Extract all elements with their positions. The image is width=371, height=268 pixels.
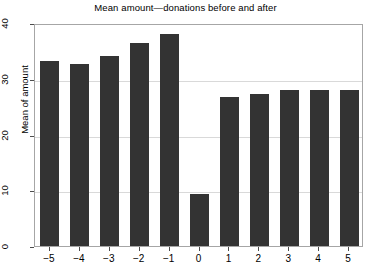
bar [40,61,59,247]
chart-title: Mean amount—donations before and after [0,2,371,13]
x-tick-label: 0 [184,253,214,264]
bar [190,194,209,247]
y-tick-label: 0 [0,227,10,267]
x-tick-mark [109,247,110,251]
x-tick-mark [258,247,259,251]
bar [340,90,359,247]
x-tick-label: 2 [243,253,273,264]
y-tick-mark [30,247,34,248]
x-tick-mark [348,247,349,251]
plot-area [34,24,363,247]
bar [310,90,329,247]
x-tick-mark [79,247,80,251]
bar [130,43,149,247]
bar [280,90,299,247]
bar [250,94,269,247]
x-tick-mark [139,247,140,251]
x-tick-mark [169,247,170,251]
x-tick-mark [288,247,289,251]
x-tick-label: 3 [273,253,303,264]
y-axis-label: Mean of amount [19,30,30,170]
x-tick-label: −4 [64,253,94,264]
bar [70,64,89,247]
x-tick-mark [199,247,200,251]
x-tick-label: −5 [34,253,64,264]
bar [160,34,179,247]
x-tick-label: −2 [124,253,154,264]
x-tick-mark [318,247,319,251]
bar [100,56,119,247]
x-tick-mark [49,247,50,251]
x-tick-label: 4 [303,253,333,264]
bar [220,97,239,247]
x-tick-label: −1 [154,253,184,264]
y-tick-label: 20 [0,115,10,155]
x-tick-label: 1 [213,253,243,264]
x-tick-label: −3 [94,253,124,264]
x-tick-mark [228,247,229,251]
y-tick-label: 30 [0,59,10,99]
y-tick-label: 40 [0,4,10,44]
x-tick-label: 5 [333,253,363,264]
bar-chart: Mean amount—donations before and after M… [0,0,371,268]
y-tick-label: 10 [0,171,10,211]
